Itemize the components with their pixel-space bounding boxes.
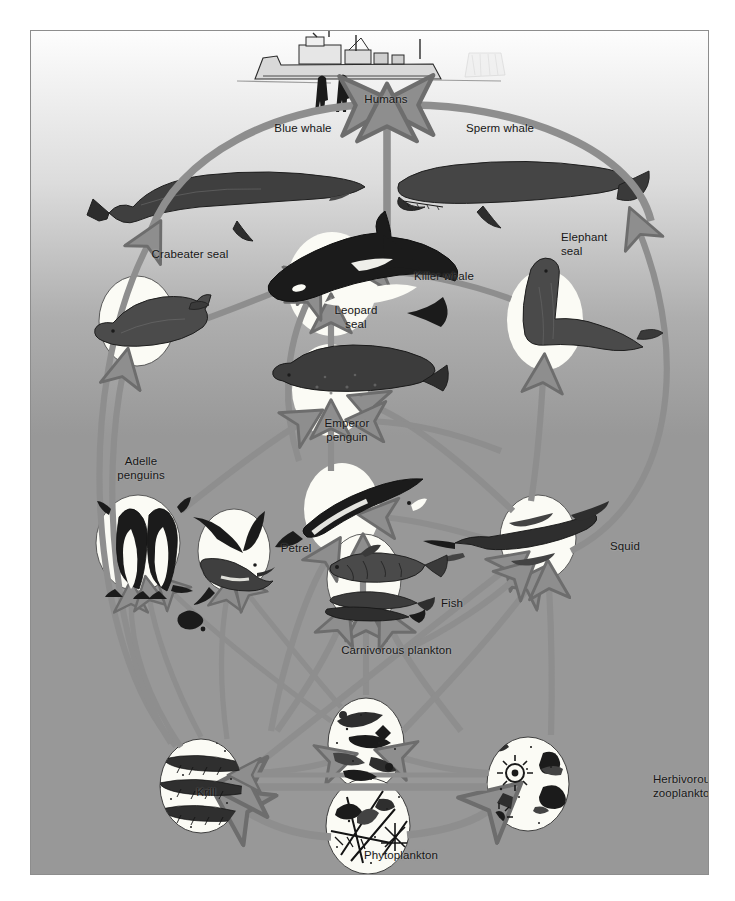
food-web-arrow-layer: .arw{fill:none;stroke:#8e8e8e;stroke-wid…	[31, 31, 708, 874]
iceberg-icon	[465, 53, 505, 77]
food-web-figure: .arw{fill:none;stroke:#8e8e8e;stroke-wid…	[0, 0, 735, 901]
rock-dot-icon	[201, 627, 206, 632]
arrow-herb-zoo-to-squid	[549, 585, 552, 735]
illustration-panel: .arw{fill:none;stroke:#8e8e8e;stroke-wid…	[30, 30, 709, 875]
